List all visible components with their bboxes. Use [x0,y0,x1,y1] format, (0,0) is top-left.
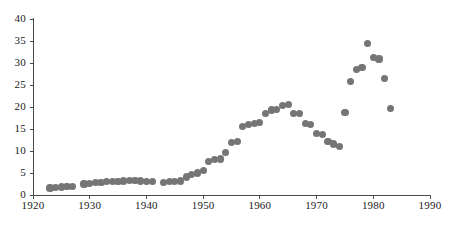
x-tick-mark [316,195,317,199]
x-tick-label: 1950 [183,200,223,211]
data-point [69,183,76,190]
x-tick-label: 1980 [353,200,393,211]
y-tick-label: 25 [2,79,26,90]
data-point [234,138,241,145]
y-tick-mark [30,129,34,130]
x-axis-line [33,195,430,196]
data-point [285,101,292,108]
data-point [217,155,224,162]
y-tick-label: 40 [2,13,26,24]
data-point [336,143,343,150]
y-tick-mark [30,19,34,20]
x-tick-mark [146,195,147,199]
data-point [358,64,365,71]
data-point [375,55,382,62]
y-tick-mark [30,85,34,86]
data-point [381,75,388,82]
y-tick-label: 10 [2,145,26,156]
x-tick-mark [259,195,260,199]
x-tick-label: 1960 [240,200,280,211]
data-point [256,119,263,126]
data-point [296,110,303,117]
x-tick-mark [89,195,90,199]
y-tick-mark [30,151,34,152]
data-point [341,109,348,116]
y-tick-label: 30 [2,57,26,68]
x-tick-mark [33,195,34,199]
x-tick-label: 1940 [126,200,166,211]
y-tick-label: 20 [2,101,26,112]
y-tick-mark [30,41,34,42]
x-tick-label: 1990 [410,200,450,211]
x-tick-label: 1930 [70,200,110,211]
y-tick-mark [30,173,34,174]
y-tick-mark [30,107,34,108]
x-tick-label: 1920 [13,200,53,211]
plot-area: 0510152025303540 19201930194019501960197… [0,0,457,231]
x-tick-mark [430,195,431,199]
data-point [364,40,371,47]
data-point [307,121,314,128]
data-point [222,149,229,156]
y-tick-label: 5 [2,167,26,178]
data-point [200,167,207,174]
data-point [347,78,354,85]
x-tick-label: 1970 [297,200,337,211]
y-tick-mark [30,63,34,64]
data-point [319,131,326,138]
scatter-chart: 0510152025303540 19201930194019501960197… [0,0,457,231]
y-tick-label: 35 [2,35,26,46]
data-point [387,105,394,112]
data-point [149,178,156,185]
y-tick-label: 15 [2,123,26,134]
x-tick-mark [203,195,204,199]
x-tick-mark [373,195,374,199]
